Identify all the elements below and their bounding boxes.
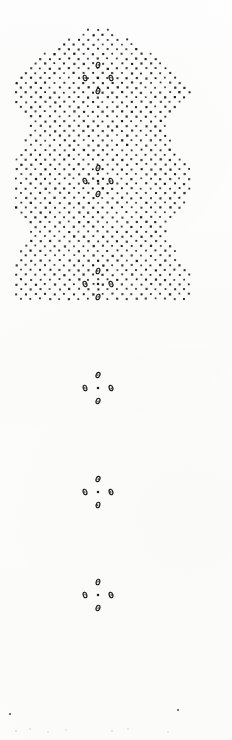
bottom-specks [0,706,232,740]
dot-lattice-plate [0,0,232,740]
plate-page [0,0,232,740]
motif-rings-layer [0,0,232,740]
